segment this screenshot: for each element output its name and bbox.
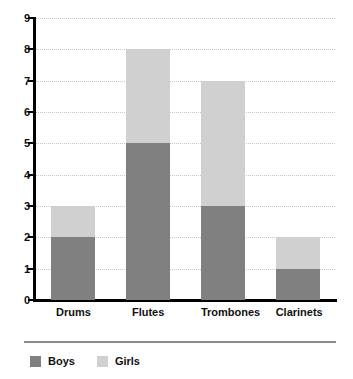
x-category-label: Clarinets (276, 306, 320, 326)
bar-group (126, 18, 170, 300)
x-axis-category-labels: DrumsFlutesTrombonesClarinets (36, 306, 335, 326)
y-tick-mark (28, 142, 34, 144)
legend-swatch-icon (30, 356, 41, 367)
legend-separator (24, 341, 336, 343)
bar-segment-boys (51, 237, 95, 300)
x-category-label: Drums (51, 306, 95, 326)
bar-group (201, 18, 245, 300)
y-axis-tick-labels: 9876543210 (10, 18, 30, 300)
y-tick-mark (28, 80, 34, 82)
y-tick-mark (28, 111, 34, 113)
stacked-bar-chart: 9876543210 DrumsFlutesTrombonesClarinets… (0, 0, 353, 379)
bar-segment-girls (126, 49, 170, 143)
chart-legend: BoysGirls (30, 352, 140, 370)
legend-label: Girls (115, 356, 140, 367)
bar-segment-boys (201, 206, 245, 300)
plot-region: 9876543210 DrumsFlutesTrombonesClarinets (0, 0, 353, 330)
y-tick-mark (28, 17, 34, 19)
y-tick-mark (28, 48, 34, 50)
bar-segment-girls (201, 81, 245, 206)
bars-layer (36, 18, 335, 300)
y-tick-mark (28, 205, 34, 207)
y-tick-mark (28, 268, 34, 270)
bar-group (51, 18, 95, 300)
bar-segment-girls (276, 237, 320, 268)
bar-segment-girls (51, 206, 95, 237)
legend-item-boys[interactable]: Boys (30, 356, 75, 367)
plot-area (36, 18, 335, 300)
y-tick-mark (28, 299, 34, 301)
x-category-label: Flutes (126, 306, 170, 326)
y-tick-mark (28, 236, 34, 238)
bar-group (276, 18, 320, 300)
legend-label: Boys (48, 356, 75, 367)
legend-item-girls[interactable]: Girls (97, 356, 140, 367)
legend-swatch-icon (97, 356, 108, 367)
y-tick-mark (28, 174, 34, 176)
bar-segment-boys (276, 269, 320, 300)
x-category-label: Trombones (201, 306, 245, 326)
bar-segment-boys (126, 143, 170, 300)
